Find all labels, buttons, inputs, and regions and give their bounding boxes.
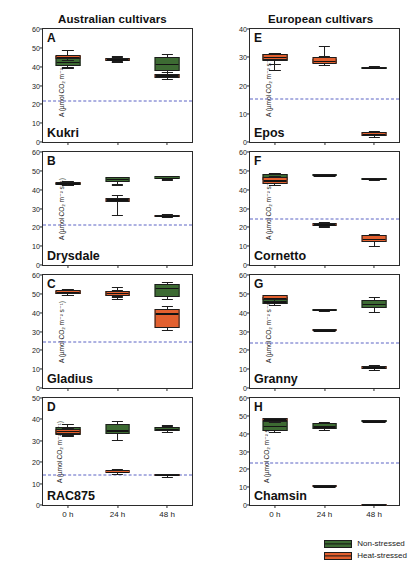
median-line bbox=[56, 431, 79, 432]
box bbox=[105, 58, 130, 60]
y-tick-label: 30 bbox=[239, 204, 247, 213]
y-tick-label: 40 bbox=[32, 185, 40, 194]
boxplot-heat-stressed bbox=[105, 275, 130, 388]
x-tick-mark bbox=[67, 142, 68, 145]
panel-letter: E bbox=[254, 31, 262, 45]
y-tick-mark bbox=[40, 274, 43, 275]
whisker-min bbox=[117, 202, 118, 215]
whisker-cap-min bbox=[319, 226, 330, 227]
y-tick-label: 30 bbox=[32, 81, 40, 90]
box bbox=[312, 329, 337, 331]
whisker-cap-min bbox=[112, 474, 123, 475]
whisker-cap-min bbox=[161, 330, 172, 331]
median-line bbox=[363, 505, 386, 506]
median-line bbox=[313, 61, 336, 62]
whisker-cap-min bbox=[368, 246, 379, 247]
boxplot-heat-stressed bbox=[105, 29, 130, 142]
whisker-cap-min bbox=[62, 434, 73, 435]
cultivar-label: Gladius bbox=[47, 372, 93, 386]
y-tick-label: 10 bbox=[239, 365, 247, 374]
y-tick-mark bbox=[247, 487, 250, 488]
legend-item-heat-stressed: Heat-stressed bbox=[324, 551, 407, 560]
whisker-cap-min bbox=[112, 215, 123, 216]
y-tick-mark bbox=[40, 66, 43, 67]
cultivar-label: Cornetto bbox=[254, 249, 306, 263]
x-tick-mark bbox=[167, 142, 168, 145]
y-tick-label: 20 bbox=[239, 223, 247, 232]
box bbox=[155, 474, 180, 476]
x-tick-mark bbox=[324, 505, 325, 508]
y-tick-mark bbox=[40, 440, 43, 441]
cultivar-label: Kukri bbox=[47, 126, 79, 140]
boxplot-heat-stressed bbox=[155, 275, 180, 388]
y-tick-mark bbox=[40, 246, 43, 247]
y-tick-mark bbox=[40, 123, 43, 124]
y-tick-mark bbox=[40, 419, 43, 420]
box bbox=[155, 215, 180, 217]
y-tick-label: 60 bbox=[32, 271, 40, 280]
box bbox=[262, 177, 287, 184]
y-tick-label: 20 bbox=[239, 465, 247, 474]
whisker-cap-min bbox=[319, 65, 330, 66]
panel-letter: A bbox=[47, 31, 56, 45]
legend: Non-stressed Heat-stressed bbox=[324, 536, 407, 560]
y-tick-label: 50 bbox=[32, 43, 40, 52]
box bbox=[312, 223, 337, 226]
y-tick-label: 10 bbox=[32, 242, 40, 251]
y-tick-mark bbox=[40, 312, 43, 313]
y-tick-label: 20 bbox=[239, 346, 247, 355]
panel-kukri: 0102030405060A (µmol CO₂ m⁻² s⁻¹)AKukri bbox=[0, 24, 197, 147]
x-tick-label: 24 h bbox=[317, 510, 333, 519]
y-tick-mark bbox=[40, 151, 43, 152]
box bbox=[155, 74, 180, 79]
whisker-cap-min bbox=[269, 301, 280, 302]
y-tick-mark bbox=[247, 28, 250, 29]
y-tick-mark bbox=[40, 369, 43, 370]
median-line bbox=[106, 59, 129, 60]
y-tick-mark bbox=[40, 141, 43, 142]
legend-swatch-heat-stressed bbox=[324, 552, 352, 560]
y-tick-label: 10 bbox=[239, 242, 247, 251]
cultivar-label: Epos bbox=[254, 126, 285, 140]
box bbox=[55, 429, 80, 434]
y-tick-label: 40 bbox=[239, 429, 247, 438]
x-tick-mark bbox=[167, 505, 168, 508]
box bbox=[312, 485, 337, 487]
panel-letter: B bbox=[47, 154, 56, 168]
x-tick-label: 48 h bbox=[159, 510, 175, 519]
median-line bbox=[56, 57, 79, 58]
y-tick-mark bbox=[40, 104, 43, 105]
x-tick-mark bbox=[117, 142, 118, 145]
y-tick-label: 30 bbox=[239, 447, 247, 456]
median-line bbox=[263, 419, 286, 420]
y-tick-mark bbox=[40, 170, 43, 171]
y-tick-label: 30 bbox=[32, 204, 40, 213]
y-tick-label: 60 bbox=[239, 394, 247, 403]
whisker-cap-min bbox=[112, 61, 123, 62]
x-tick-mark bbox=[274, 388, 275, 391]
boxplot-heat-stressed bbox=[155, 398, 180, 505]
boxplot-heat-stressed bbox=[312, 398, 337, 505]
whisker-cap-min bbox=[161, 79, 172, 80]
panel-letter: F bbox=[254, 154, 261, 168]
y-tick-mark bbox=[40, 28, 43, 29]
median-line bbox=[156, 313, 179, 314]
x-tick-mark bbox=[167, 265, 168, 268]
whisker-cap-min bbox=[368, 137, 379, 138]
legend-label-heat-stressed: Heat-stressed bbox=[357, 551, 407, 560]
y-tick-mark bbox=[247, 264, 250, 265]
box bbox=[362, 366, 387, 369]
y-tick-label: 30 bbox=[239, 53, 247, 62]
legend-swatch-non-stressed bbox=[324, 540, 352, 548]
median-line bbox=[313, 486, 336, 487]
x-tick-mark bbox=[324, 388, 325, 391]
whisker-cap-min bbox=[368, 370, 379, 371]
x-tick-mark bbox=[274, 505, 275, 508]
x-tick-mark bbox=[374, 265, 375, 268]
y-tick-label: 40 bbox=[239, 308, 247, 317]
y-tick-label: 30 bbox=[32, 327, 40, 336]
boxplot-heat-stressed bbox=[155, 29, 180, 142]
y-tick-mark bbox=[247, 397, 250, 398]
box bbox=[55, 182, 80, 184]
box bbox=[55, 290, 80, 294]
